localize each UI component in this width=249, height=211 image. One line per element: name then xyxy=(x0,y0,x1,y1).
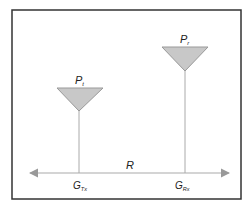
link-budget-diagram: Pt Pr R GTx GRx xyxy=(0,0,249,211)
distance-label: R xyxy=(126,159,134,171)
